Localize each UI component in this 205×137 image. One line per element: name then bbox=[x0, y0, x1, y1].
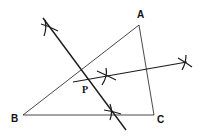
bisector-line-2 bbox=[73, 62, 187, 82]
construction-diagram: A B C P bbox=[0, 0, 205, 137]
arc-mark-middle bbox=[97, 68, 116, 85]
bisector-line-1 bbox=[43, 18, 126, 130]
vertex-label-b: B bbox=[11, 113, 18, 124]
vertex-label-c: C bbox=[157, 114, 164, 125]
vertex-label-a: A bbox=[137, 9, 144, 20]
triangle-abc bbox=[23, 25, 154, 115]
arc-mark-bottom bbox=[104, 104, 121, 120]
arc-mark-right bbox=[178, 55, 192, 70]
point-label-p: P bbox=[82, 84, 88, 95]
arc-mark-top-left bbox=[41, 20, 58, 36]
